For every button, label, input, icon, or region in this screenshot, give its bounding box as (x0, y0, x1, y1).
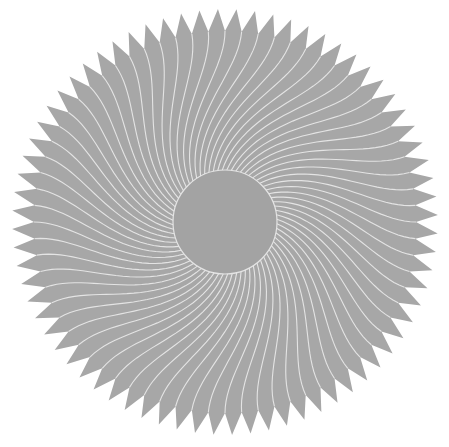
rosette-figure (0, 0, 449, 447)
central-hub-circle (173, 170, 277, 274)
spiral-rosette-graphic (0, 0, 449, 447)
